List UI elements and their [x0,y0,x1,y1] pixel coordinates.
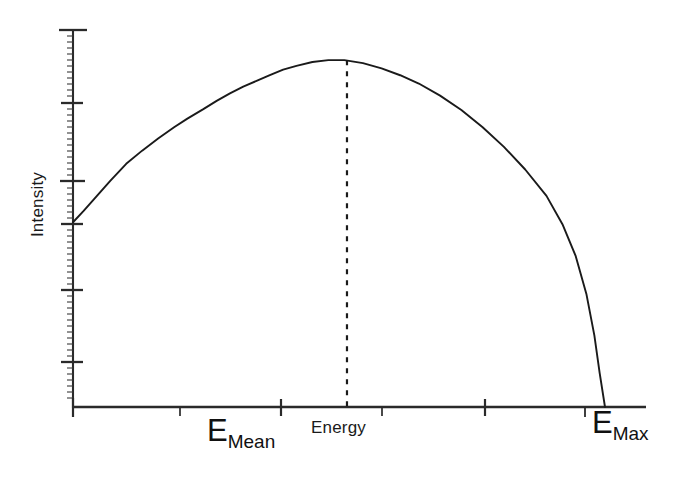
e-mean-label: EMean [207,415,275,446]
e-max-subscript: Max [613,423,649,444]
spectrum-curve [73,60,605,407]
beta-spectrum-chart: Intensity Energy EMean EMax [0,0,684,485]
e-max-base: E [592,405,613,440]
e-mean-subscript: Mean [228,431,276,452]
e-max-label: EMax [592,407,649,438]
intensity-axis [59,29,87,408]
plot-area [0,0,684,485]
y-axis-title: Intensity [29,150,46,260]
x-axis-title: Energy [311,419,366,436]
energy-axis [72,398,646,417]
e-mean-base: E [207,413,228,448]
